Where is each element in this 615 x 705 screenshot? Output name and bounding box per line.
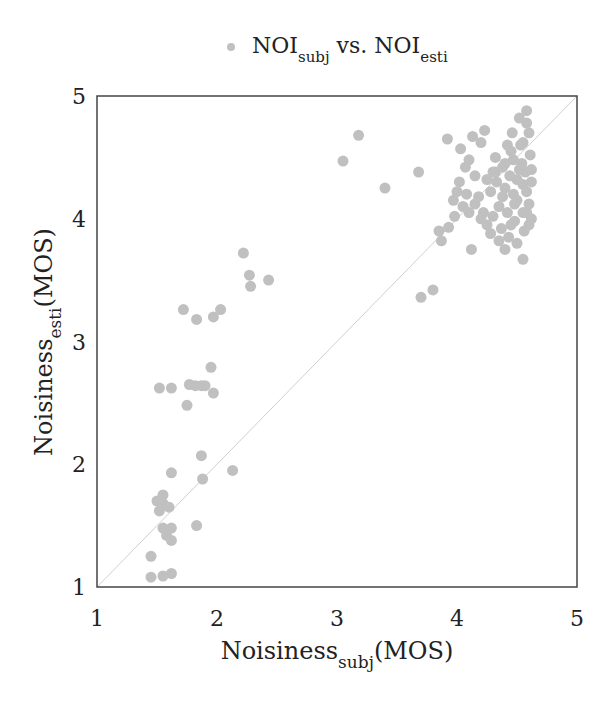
data-point (191, 520, 202, 531)
data-point (154, 383, 165, 394)
data-point (454, 176, 465, 187)
data-point (506, 219, 517, 230)
data-point (458, 201, 469, 212)
data-point (443, 222, 454, 233)
legend-label: NOIsubj vs. NOIesti (252, 33, 448, 66)
y-axis-label: Noisinessesti(MOS) (30, 228, 65, 456)
data-point (490, 152, 501, 163)
data-point (470, 170, 481, 181)
legend: NOIsubj vs. NOIesti (227, 33, 448, 66)
data-point (428, 284, 439, 295)
data-point (416, 292, 427, 303)
data-point (496, 223, 507, 234)
data-point (476, 137, 487, 148)
data-point (507, 127, 518, 138)
data-point (521, 105, 532, 116)
data-point (502, 207, 513, 218)
data-point (146, 572, 157, 583)
y-axis-ticks: 12345 (72, 84, 86, 600)
data-point (526, 164, 537, 175)
data-point (482, 174, 493, 185)
y-tick-label: 4 (72, 207, 86, 232)
data-point (461, 189, 472, 200)
data-point (182, 400, 193, 411)
data-points (146, 105, 537, 583)
y-tick-label: 3 (72, 330, 86, 355)
data-point (479, 125, 490, 136)
data-point (470, 199, 481, 210)
data-point (455, 143, 466, 154)
data-point (442, 134, 453, 145)
data-point (197, 474, 208, 485)
data-point (449, 211, 460, 222)
data-point (166, 523, 177, 534)
data-point (512, 238, 523, 249)
data-point (227, 465, 238, 476)
data-point (200, 380, 211, 391)
x-tick-label: 2 (210, 606, 224, 631)
x-tick-label: 3 (330, 606, 344, 631)
data-point (338, 156, 349, 167)
data-point (502, 140, 513, 151)
scatter-chart: NOIsubj vs. NOIesti 12345 12345 Noisines… (0, 0, 615, 705)
data-point (196, 450, 207, 461)
data-point (215, 304, 226, 315)
data-point (436, 235, 447, 246)
data-point (476, 213, 487, 224)
data-point (245, 281, 256, 292)
data-point (178, 304, 189, 315)
data-point (526, 176, 537, 187)
data-point (158, 489, 169, 500)
y-tick-label: 2 (72, 452, 86, 477)
data-point (485, 228, 496, 239)
data-point (500, 158, 511, 169)
data-point (208, 388, 219, 399)
plot-area (97, 96, 577, 587)
data-point (452, 186, 463, 197)
data-point (146, 551, 157, 562)
data-point (521, 118, 532, 129)
data-point (525, 149, 536, 160)
data-point (485, 186, 496, 197)
data-point (524, 127, 535, 138)
data-point (464, 154, 475, 165)
x-axis-label: Noisinesssubj(MOS) (221, 637, 454, 672)
data-point (509, 199, 520, 210)
data-point (521, 207, 532, 218)
data-point (497, 191, 508, 202)
data-point (164, 502, 175, 513)
data-point (353, 130, 364, 141)
y-tick-label: 1 (72, 575, 86, 600)
data-point (514, 164, 525, 175)
data-point (413, 167, 424, 178)
data-point (263, 275, 274, 286)
x-tick-label: 1 (90, 606, 104, 631)
legend-marker (227, 43, 235, 51)
data-point (518, 254, 529, 265)
data-point (244, 270, 255, 281)
data-point (518, 137, 529, 148)
data-point (524, 219, 535, 230)
data-point (238, 248, 249, 259)
data-point (490, 167, 501, 178)
data-point (166, 383, 177, 394)
data-point (206, 362, 217, 373)
x-axis-ticks: 12345 (90, 606, 584, 631)
x-tick-label: 4 (450, 606, 464, 631)
data-point (166, 467, 177, 478)
data-point (434, 226, 445, 237)
y-tick-label: 5 (72, 84, 86, 109)
data-point (191, 314, 202, 325)
data-point (494, 235, 505, 246)
x-tick-label: 5 (570, 606, 584, 631)
data-point (166, 568, 177, 579)
data-point (466, 244, 477, 255)
data-point (521, 186, 532, 197)
data-point (380, 183, 391, 194)
data-point (488, 211, 499, 222)
